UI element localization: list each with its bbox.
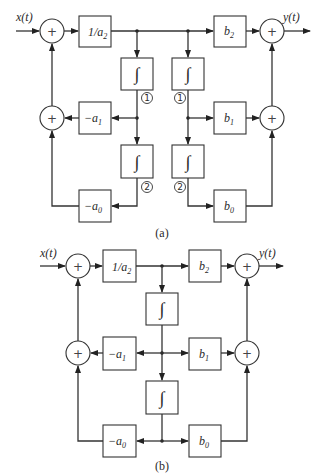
integrator-b-1: ∫ bbox=[146, 293, 178, 325]
svg-text:2: 2 bbox=[144, 182, 150, 192]
svg-text:+: + bbox=[242, 347, 252, 361]
input-label-b: x(t) bbox=[39, 246, 57, 260]
adder-a-mid-right: + bbox=[260, 106, 284, 130]
integrator-b-2: ∫ bbox=[146, 381, 178, 414]
block-diagram-figure: x(t) + 1/a2 b2 + y(t) bbox=[0, 0, 319, 475]
node-label-2-left: 2 bbox=[142, 182, 153, 193]
gain-block-b2-b: b2 bbox=[189, 250, 221, 282]
svg-text:+: + bbox=[47, 25, 57, 39]
node-label-2-right: 2 bbox=[175, 182, 186, 193]
gain-block-b1-a: b1 bbox=[214, 102, 246, 134]
adder-a-mid-left: + bbox=[40, 106, 64, 130]
diagram-a: x(t) + 1/a2 b2 + y(t) bbox=[15, 10, 310, 240]
svg-text:2: 2 bbox=[177, 182, 183, 192]
gain-block-neg-a1-b: −a1 bbox=[103, 337, 136, 370]
node-label-1-right: 1 bbox=[175, 93, 186, 104]
gain-block-b2-a: b2 bbox=[214, 16, 246, 47]
integrator-a-left-2: ∫ bbox=[121, 145, 153, 178]
adder-b-top-left: + bbox=[66, 254, 90, 278]
svg-text:+: + bbox=[47, 112, 57, 126]
adder-b-mid-left: + bbox=[66, 341, 90, 365]
gain-block-1-over-a2-b: 1/a2 bbox=[103, 250, 136, 282]
input-label-a: x(t) bbox=[15, 10, 33, 24]
adder-b-top-right: + bbox=[235, 254, 259, 278]
gain-block-1-over-a2-a: 1/a2 bbox=[79, 16, 111, 47]
gain-block-neg-a1-a: −a1 bbox=[79, 102, 111, 134]
output-label-a: y(t) bbox=[282, 10, 300, 24]
integrator-a-left-1: ∫ bbox=[121, 58, 153, 90]
svg-text:+: + bbox=[267, 25, 277, 39]
gain-block-b1-b: b1 bbox=[189, 338, 221, 370]
diagram-b: x(t) + 1/a2 b2 + y(t) ∫ bbox=[39, 246, 283, 473]
integrator-a-right-1: ∫ bbox=[172, 58, 204, 90]
output-label-b: y(t) bbox=[258, 246, 276, 260]
svg-text:+: + bbox=[267, 112, 277, 126]
gain-block-b0-b: b0 bbox=[189, 425, 221, 457]
svg-text:+: + bbox=[242, 260, 252, 274]
svg-text:1: 1 bbox=[177, 93, 183, 103]
svg-text:+: + bbox=[73, 347, 83, 361]
caption-b: (b) bbox=[155, 459, 169, 473]
node-label-1-left: 1 bbox=[142, 93, 153, 104]
svg-text:+: + bbox=[73, 260, 83, 274]
adder-a-top-right: + bbox=[260, 19, 284, 43]
caption-a: (a) bbox=[155, 226, 168, 240]
svg-text:1: 1 bbox=[144, 93, 150, 103]
adder-b-mid-right: + bbox=[235, 341, 259, 365]
gain-block-neg-a0-b: −a0 bbox=[103, 425, 136, 457]
adder-a-top-left: + bbox=[40, 19, 64, 43]
integrator-a-right-2: ∫ bbox=[172, 145, 204, 178]
gain-block-b0-a: b0 bbox=[214, 190, 246, 222]
gain-block-neg-a0-a: −a0 bbox=[79, 190, 111, 222]
